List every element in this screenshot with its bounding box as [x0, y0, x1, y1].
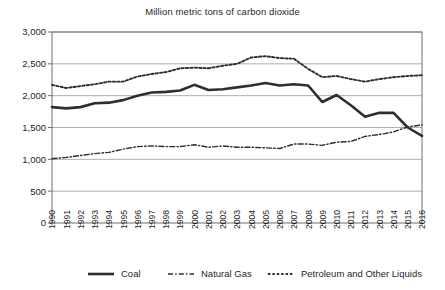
y-axis-tick-label: 3,000	[22, 26, 46, 37]
x-axis-tick-label: 2005	[261, 210, 271, 229]
series-line-petroleum-and-other-liquids	[52, 56, 422, 88]
x-axis-tick-label: 2002	[218, 210, 228, 229]
x-axis-tick-label: 1990	[47, 210, 57, 229]
legend-label: Petroleum and Other Liquids	[301, 268, 422, 279]
x-axis-tick-label: 2008	[304, 210, 314, 229]
x-axis-tick-label: 2011	[346, 210, 356, 229]
x-axis-tick-label: 2003	[232, 210, 242, 229]
x-axis-tick-label: 1994	[104, 210, 114, 229]
chart-container: Million metric tons of carbon dioxide 3,…	[0, 0, 445, 290]
legend-label: Coal	[121, 268, 141, 279]
x-axis-tick-label: 2006	[275, 210, 285, 229]
x-axis-tick-label: 2001	[204, 210, 214, 229]
x-axis-tick-label: 2013	[375, 210, 385, 229]
x-axis-tick-label: 2014	[389, 210, 399, 229]
legend-label: Natural Gas	[201, 268, 252, 279]
y-axis-tick-label: 0	[41, 217, 46, 228]
x-axis-tick-label: 2004	[247, 210, 257, 229]
x-axis-tick-label: 2010	[332, 210, 342, 229]
x-axis-tick-label: 1995	[119, 210, 129, 229]
series-line-natural-gas	[52, 125, 422, 159]
y-axis-tick-label: 2,500	[22, 58, 46, 69]
x-axis-tick-label: 2015	[403, 210, 413, 229]
x-axis-tick-label: 1992	[76, 210, 86, 229]
y-axis-tick-label: 1,000	[22, 154, 46, 165]
chart-legend: CoalNatural GasPetroleum and Other Liqui…	[88, 268, 422, 279]
y-axis-tick-label: 2,000	[22, 90, 46, 101]
x-axis-tick-label: 2009	[318, 210, 328, 229]
x-axis-tick-label: 2000	[190, 210, 200, 229]
x-axis-tick-label: 2016	[417, 210, 427, 229]
gridlines-group	[52, 32, 422, 223]
chart-svg: 3,0002,5002,0001,5001,0005000 1990199119…	[0, 0, 445, 290]
x-axis-tick-label: 1991	[62, 210, 72, 229]
x-axis-tick-label: 1996	[133, 210, 143, 229]
x-axis-tick-label: 1997	[147, 210, 157, 229]
x-axis-tick-label: 2012	[360, 210, 370, 229]
x-axis-tick-label: 2007	[289, 210, 299, 229]
y-axis-tick-label: 1,500	[22, 122, 46, 133]
data-series-group	[52, 56, 422, 159]
x-axis-tick-label: 1998	[161, 210, 171, 229]
y-axis-tick-labels: 3,0002,5002,0001,5001,0005000	[22, 26, 52, 228]
y-axis-tick-label: 500	[30, 186, 46, 197]
x-axis-tick-label: 1999	[175, 210, 185, 229]
x-axis-tick-label: 1993	[90, 210, 100, 229]
x-axis-tick-labels: 1990199119921993199419951996199719981999…	[47, 210, 427, 229]
